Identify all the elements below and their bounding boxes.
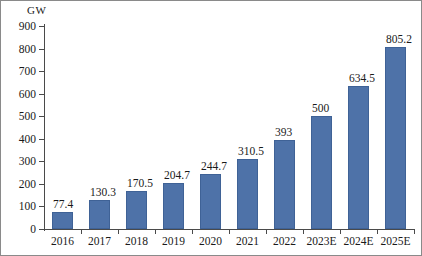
x-tick-mark <box>377 229 378 234</box>
y-tick-label: 400 <box>19 133 36 145</box>
y-tick-mark <box>39 206 44 207</box>
y-tick-mark <box>39 139 44 140</box>
bar-item[interactable]: 310.5 <box>229 159 266 229</box>
bar[interactable]: 393 <box>274 140 295 229</box>
x-tick-mark <box>303 229 304 234</box>
y-tick-label: 700 <box>19 65 36 77</box>
x-category-label: 2021 <box>236 235 259 247</box>
bar-item[interactable]: 204.7 <box>155 183 192 229</box>
x-tick-mark <box>266 229 267 234</box>
bar-value-label: 393 <box>275 126 292 138</box>
y-axis-unit-label: GW <box>27 4 46 16</box>
bar[interactable]: 805.2 <box>385 47 406 229</box>
x-tick-mark <box>414 229 415 234</box>
bar[interactable]: 310.5 <box>237 159 258 229</box>
y-tick-label: 900 <box>19 20 36 32</box>
x-category-label: 2022 <box>273 235 296 247</box>
y-tick-label: 300 <box>19 155 36 167</box>
y-tick-mark <box>39 116 44 117</box>
y-tick-mark <box>39 26 44 27</box>
x-category-label: 2023E <box>306 235 336 247</box>
bar-value-label: 130.3 <box>90 186 116 198</box>
bar-value-label: 77.4 <box>53 198 73 210</box>
x-category-label: 2019 <box>162 235 185 247</box>
y-tick-mark <box>39 161 44 162</box>
bar-item[interactable]: 170.5 <box>118 191 155 229</box>
bar-value-label: 204.7 <box>164 169 190 181</box>
bar-item[interactable]: 634.5 <box>340 86 377 229</box>
x-tick-mark <box>192 229 193 234</box>
bar-value-label: 244.7 <box>201 160 227 172</box>
bar-value-label: 805.2 <box>386 33 412 45</box>
x-tick-mark <box>229 229 230 234</box>
x-tick-mark <box>155 229 156 234</box>
y-tick-label: 100 <box>19 200 36 212</box>
bar[interactable]: 77.4 <box>52 212 73 229</box>
bar-value-label: 500 <box>312 102 329 114</box>
bar-value-label: 634.5 <box>349 72 375 84</box>
bar-item[interactable]: 77.4 <box>44 212 81 229</box>
x-category-label: 2025E <box>380 235 410 247</box>
y-tick-label: 500 <box>19 110 36 122</box>
y-tick-mark <box>39 94 44 95</box>
bar-value-label: 310.5 <box>238 145 264 157</box>
bar-item[interactable]: 244.7 <box>192 174 229 229</box>
x-category-label: 2016 <box>51 235 74 247</box>
y-tick-mark <box>39 71 44 72</box>
y-tick-label: 600 <box>19 88 36 100</box>
bar-item[interactable]: 500 <box>303 116 340 229</box>
bar-value-label: 170.5 <box>127 177 153 189</box>
bar[interactable]: 170.5 <box>126 191 147 229</box>
bar-item[interactable]: 393 <box>266 140 303 229</box>
bar[interactable]: 244.7 <box>200 174 221 229</box>
plot-area: 0100200300400500600700800900 77.4130.317… <box>44 26 414 229</box>
y-tick-label: 800 <box>19 43 36 55</box>
x-category-label: 2018 <box>125 235 148 247</box>
y-tick-label: 0 <box>30 223 36 235</box>
x-category-label: 2020 <box>199 235 222 247</box>
y-tick-mark <box>39 49 44 50</box>
x-category-label: 2024E <box>343 235 373 247</box>
bar[interactable]: 204.7 <box>163 183 184 229</box>
y-tick-mark <box>39 229 44 230</box>
bar-item[interactable]: 130.3 <box>81 200 118 229</box>
bar[interactable]: 500 <box>311 116 332 229</box>
bar[interactable]: 130.3 <box>89 200 110 229</box>
chart-figure: GW 0100200300400500600700800900 77.4130.… <box>0 0 422 256</box>
y-tick-mark <box>39 184 44 185</box>
y-tick-label: 200 <box>19 178 36 190</box>
x-category-label: 2017 <box>88 235 111 247</box>
bar-item[interactable]: 805.2 <box>377 47 414 229</box>
x-tick-mark <box>118 229 119 234</box>
x-tick-mark <box>340 229 341 234</box>
bar[interactable]: 634.5 <box>348 86 369 229</box>
x-tick-mark <box>81 229 82 234</box>
